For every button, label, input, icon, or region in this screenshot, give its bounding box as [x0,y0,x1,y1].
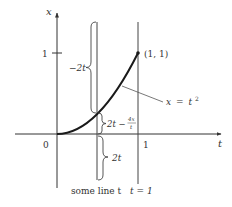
eq-rhs: t [188,97,192,107]
equation-leader-line [122,86,163,102]
t-axis-label: t [218,138,223,149]
brace-lower-label: 2t [111,153,122,163]
x-tick-1-label: 1 [42,49,48,59]
brace-upper-label: −2t [69,63,86,73]
eq-equals: = [176,97,184,107]
brace-middle-frac-den: t [130,124,133,130]
eq-exponent: 2 [195,95,199,102]
brace-middle [98,113,106,134]
diagram-canvas: x t 0 1 1 (1, 1) x = t 2 −2t 2t − 4x t 2… [0,0,232,207]
t-equals-1-label: t = 1 [130,186,153,196]
brace-upper [86,22,96,113]
some-line-t-label: some line t [71,186,121,196]
brace-middle-frac-num: 4x [127,116,135,122]
x-axis-label: x [46,6,52,17]
t-tick-1-label: 1 [143,140,149,150]
endpoint-dot [136,51,140,55]
eq-lhs: x [166,97,171,107]
endpoint-label: (1, 1) [144,49,168,59]
brace-lower [98,136,108,180]
equation-label: x = t 2 [166,95,199,107]
brace-middle-label: 2t − [106,119,126,129]
origin-label: 0 [43,140,49,150]
